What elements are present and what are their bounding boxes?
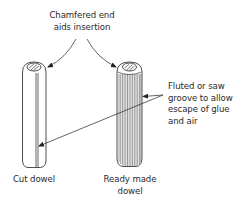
groove-label-line4: and air [168, 116, 233, 128]
ready-made-dowel-shape [117, 62, 142, 167]
chamfer-label-line1: Chamfered end [38, 10, 126, 22]
groove-arrows [39, 95, 163, 146]
ready-made-label-line2: dowel [95, 186, 165, 198]
ready-made-label: Ready made dowel [95, 174, 165, 197]
dowel-diagram: Chamfered end aids insertion Fluted or s… [0, 0, 252, 207]
cut-dowel-shape [23, 62, 47, 168]
groove-label: Fluted or saw groove to allow escape of … [168, 81, 233, 127]
chamfer-label: Chamfered end aids insertion [38, 10, 126, 33]
groove-label-line2: groove to allow [168, 93, 233, 105]
groove-label-line1: Fluted or saw [168, 81, 233, 93]
chamfer-label-line2: aids insertion [38, 22, 126, 34]
groove-label-line3: escape of glue [168, 104, 233, 116]
chamfer-arrows [48, 39, 116, 67]
cut-dowel-label: Cut dowel [4, 174, 64, 186]
ready-made-label-line1: Ready made [95, 174, 165, 186]
